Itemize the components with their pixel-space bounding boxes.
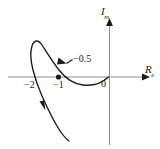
plot-canvas xyxy=(0,0,160,149)
annotation-leader-line xyxy=(67,60,73,64)
origin-label: 0 xyxy=(101,79,106,89)
real-axis-label-subscript: e xyxy=(151,71,154,78)
locus-direction-arrow-upper-icon xyxy=(57,58,67,65)
real-axis-label: Re xyxy=(145,64,155,78)
imaginary-axis xyxy=(106,18,113,145)
complex-plane-figure: Im Re 0 −2 −1 −0.5 xyxy=(0,0,160,149)
tick-label-minus-one: −1 xyxy=(53,80,64,90)
tick-label-minus-two: −2 xyxy=(24,80,35,90)
annotation-minus-half: −0.5 xyxy=(73,54,91,64)
imaginary-axis-label: Im xyxy=(101,6,110,20)
imaginary-axis-label-subscript: m xyxy=(104,13,109,20)
locus-curve xyxy=(31,41,109,141)
locus-path xyxy=(31,41,109,141)
